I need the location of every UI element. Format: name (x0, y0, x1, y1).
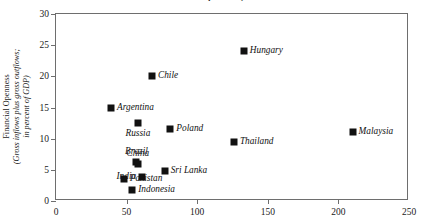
data-point-label: Malaysia (359, 126, 394, 136)
y-tick-label: 20 (40, 71, 50, 81)
chart-figure: Financial Openness, 2005 Financial Openn… (0, 0, 424, 223)
data-point (108, 104, 115, 111)
y-axis-label-line-1: Financial Openness (2, 49, 12, 164)
chart-title: Financial Openness, 2005 (0, 0, 424, 1)
x-tick-label: 150 (261, 207, 275, 217)
data-point-label: Hungary (250, 45, 283, 55)
y-tick-label: 0 (44, 196, 49, 206)
data-point-label: Chile (158, 70, 178, 80)
x-tick-label: 0 (54, 207, 59, 217)
x-tick-label: 250 (402, 207, 416, 217)
y-axis-label-line-3: in percent of GDP) (22, 49, 32, 164)
data-point (134, 160, 141, 167)
data-point-label: Pakistan (130, 173, 163, 183)
y-tick-label: 10 (40, 134, 50, 144)
data-point-label: Poland (176, 123, 203, 133)
data-point (240, 48, 247, 55)
data-point (149, 73, 156, 80)
data-point-label: Russia (125, 128, 150, 138)
x-tick-label: 200 (331, 207, 345, 217)
data-point-label: Thailand (240, 136, 274, 146)
data-point (120, 176, 127, 183)
x-tick-label: 100 (190, 207, 204, 217)
data-point-label: China (127, 148, 150, 158)
data-point (161, 168, 168, 175)
x-tick-mark (127, 199, 128, 204)
data-point (167, 126, 174, 133)
scatter-points: ArgentinaChileRussiaPolandHungaryThailan… (56, 14, 407, 199)
data-point-label: Argentina (117, 102, 154, 112)
y-tick-mark (51, 201, 56, 202)
x-tick-label: 50 (122, 207, 132, 217)
data-point (134, 120, 141, 127)
y-tick-label: 5 (44, 165, 49, 175)
data-point-label: Sri Lanka (171, 165, 207, 175)
x-tick-mark (268, 199, 269, 204)
y-axis-label: Financial Openness (Gross inflows plus g… (2, 13, 32, 200)
y-tick-label: 15 (40, 103, 50, 113)
x-tick-mark (338, 199, 339, 204)
plot-area: 051015202530 050100150200250 ArgentinaCh… (55, 13, 408, 200)
data-point-label: Indonesia (138, 184, 175, 194)
y-axis-label-line-2: (Gross inflows plus gross outflows; (12, 49, 22, 164)
data-point (129, 186, 136, 193)
x-tick-mark (197, 199, 198, 204)
y-tick-label: 25 (40, 40, 50, 50)
data-point (230, 139, 237, 146)
data-point (349, 129, 356, 136)
y-tick-label: 30 (40, 9, 50, 19)
